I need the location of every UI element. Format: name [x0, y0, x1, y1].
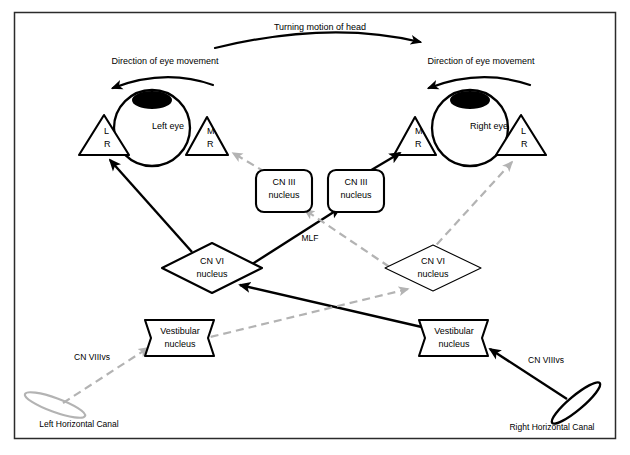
cn8-right-label: CN VIIIvs	[528, 355, 564, 365]
right-horizontal-canal-label: Right Horizontal Canal	[509, 422, 594, 432]
left-eye-pupil	[132, 91, 172, 109]
path-left-cn3-to-left-mr	[233, 153, 265, 172]
cn6-nucleus-right-label-2: nucleus	[417, 269, 449, 279]
left-lateral-rectus-label-2: R	[104, 139, 111, 149]
right-medial-rectus-triangle	[394, 117, 436, 155]
right-lateral-rectus-label-2: R	[521, 139, 528, 149]
cn3-nucleus-left-label-1: CN III	[272, 177, 295, 187]
cn6-nucleus-left-label-1: CN VI	[200, 256, 224, 266]
left-eye-movement-label: Direction of eye movement	[111, 56, 219, 66]
path-right-cn6-to-right-lr	[428, 162, 512, 254]
path-mlf-left-cn6-to-right-cn3	[246, 208, 340, 268]
cn3-nucleus-left-label-2: nucleus	[268, 190, 300, 200]
path-left-cn6-to-left-lr	[110, 160, 192, 252]
right-eye-movement-label: Direction of eye movement	[427, 56, 535, 66]
vor-pathway-diagram: Turning motion of head Direction of eye …	[0, 0, 630, 455]
cn3-nucleus-right-label-2: nucleus	[340, 190, 372, 200]
left-medial-rectus-label-1: M	[207, 126, 215, 136]
cn6-nucleus-right	[385, 245, 481, 291]
left-medial-rectus-triangle	[186, 117, 228, 155]
path-mlf-right-cn6-to-left-cn3	[305, 210, 400, 274]
head-turn-arrow	[215, 32, 420, 48]
right-medial-rectus-label-2: R	[415, 139, 422, 149]
right-lateral-rectus-label-1: L	[521, 126, 526, 136]
diagram-border	[15, 13, 616, 439]
left-eye-movement-arrow	[113, 77, 213, 88]
cn8-left-label: CN VIIIvs	[74, 352, 110, 362]
right-eye-pupil	[450, 91, 490, 109]
cn6-nucleus-left-label-2: nucleus	[196, 269, 228, 279]
vestibular-nucleus-right-label-2: nucleus	[438, 339, 470, 349]
right-eye-label: Right eye	[470, 121, 508, 131]
vestibular-nucleus-left-label-1: Vestibular	[160, 326, 200, 336]
left-horizontal-canal-label: Left Horizontal Canal	[39, 419, 118, 429]
mlf-label: MLF	[302, 233, 319, 243]
left-lateral-rectus-label-1: L	[104, 126, 109, 136]
right-horizontal-canal	[548, 378, 604, 429]
head-turn-label: Turning motion of head	[274, 22, 366, 32]
left-medial-rectus-label-2: R	[207, 139, 214, 149]
cn3-nucleus-right-label-1: CN III	[344, 177, 367, 187]
path-left-vestibular-to-right-cn6	[198, 289, 408, 340]
vestibular-nucleus-right-label-1: Vestibular	[434, 326, 474, 336]
right-eye-movement-arrow	[429, 77, 530, 88]
vestibular-nucleus-left-label-2: nucleus	[164, 339, 196, 349]
right-medial-rectus-label-1: M	[415, 126, 423, 136]
left-eye-label: Left eye	[152, 121, 184, 131]
cn6-nucleus-right-label-1: CN VI	[421, 256, 445, 266]
diagram-page: Turning motion of head Direction of eye …	[0, 0, 630, 455]
